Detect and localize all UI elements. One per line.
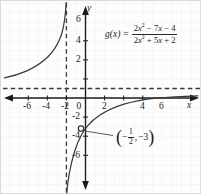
x-tick-label-2: 2 <box>102 102 107 112</box>
x-tick-label-4: 4 <box>140 102 145 112</box>
formula-function-name: g(x) <box>105 29 120 39</box>
x-tick-label--4: -4 <box>42 102 50 112</box>
x-tick-label-6: 6 <box>159 102 164 112</box>
x-tick-label--6: -6 <box>23 102 31 112</box>
formula-denominator: 2x2 + 5x + 2 <box>132 35 178 45</box>
x-tick-label--2: -2 <box>61 102 69 112</box>
function-formula: g(x) = 2x2 − 7x − 4 2x2 + 5x + 2 <box>105 23 177 45</box>
y-tick-label-4: 4 <box>76 36 81 46</box>
annotation-x-sign: − <box>122 132 127 142</box>
graph-figure: -6 -4 -2 0 2 4 6 x y 6 4 2 -2 -4 -6 g(x)… <box>0 0 201 194</box>
annotation-x-fraction: 1 2 <box>128 128 134 147</box>
annotation-x-denominator: 2 <box>129 138 133 146</box>
x-axis-label: x <box>187 101 191 111</box>
y-axis-label: y <box>87 4 91 14</box>
formula-numerator: 2x2 − 7x − 4 <box>132 23 178 33</box>
annotation-x-numerator: 1 <box>129 128 133 136</box>
y-tick-label-6: 6 <box>76 15 81 25</box>
y-tick-label--2: -2 <box>72 112 80 122</box>
annotation-y-value: −3 <box>138 132 148 142</box>
y-tick-label-2: 2 <box>76 55 81 65</box>
formula-equals: = <box>123 29 128 39</box>
annotation-comma: , <box>135 132 137 142</box>
annotation-right-paren: ) <box>148 130 154 145</box>
hole-coordinate-label: ( − 1 2 , −3 ) <box>116 128 154 147</box>
y-tick-label--4: -4 <box>72 131 80 141</box>
formula-fraction: 2x2 − 7x − 4 2x2 + 5x + 2 <box>132 23 178 45</box>
y-tick-label--6: -6 <box>72 151 80 161</box>
